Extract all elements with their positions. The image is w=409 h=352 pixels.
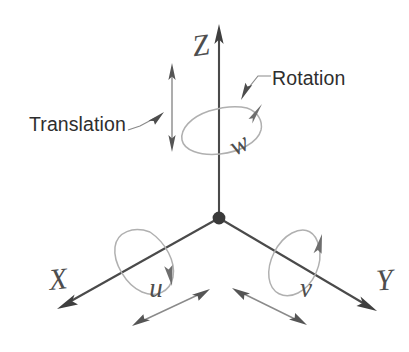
z-axis [214, 24, 223, 218]
rotation-callout-leader [241, 76, 271, 100]
translation-leader-arrowhead [149, 112, 165, 125]
origin-point [213, 212, 226, 225]
translation-arrow-z [168, 63, 175, 152]
rotation-v-about-y: v [269, 230, 322, 303]
rotation-w-about-z: w [182, 104, 262, 162]
translation-y-arrowhead-upper [232, 288, 250, 300]
z-axis-label: Z [190, 27, 211, 62]
translation-callout-label: Translation [29, 113, 126, 135]
diagram-canvas: w u v [0, 0, 409, 352]
rotation-u-label: u [149, 273, 163, 303]
y-axis-label: Y [375, 262, 397, 296]
y-axis-line [219, 218, 363, 303]
translation-x-arrowhead-lower [132, 314, 150, 326]
translation-x-arrowhead-upper [192, 289, 210, 301]
translation-arrow-x [132, 289, 210, 326]
rotation-u-about-x: u [115, 230, 174, 303]
rotation-callout-label: Rotation [272, 67, 345, 89]
y-axis-arrowhead [357, 296, 378, 311]
rotation-leader-line [250, 76, 271, 86]
rotation-v-label: v [300, 273, 312, 303]
rotation-u-ellipse [115, 230, 174, 295]
x-axis-label: X [46, 261, 70, 296]
x-axis-arrowhead [57, 295, 78, 309]
translation-y-arrowhead-lower [289, 313, 307, 325]
rotation-u-arrowhead [164, 265, 172, 286]
coordinate-system-diagram: w u v [0, 0, 409, 352]
translation-callout-leader [128, 112, 164, 130]
